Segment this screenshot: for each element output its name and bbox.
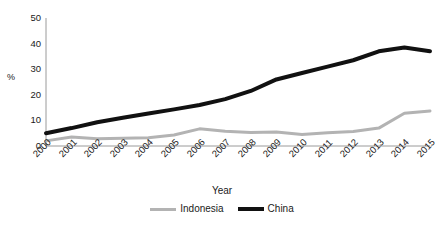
legend-swatch-icon	[238, 207, 264, 211]
legend-label: Indonesia	[180, 203, 223, 215]
legend-item-indonesia[interactable]: Indonesia	[150, 203, 223, 215]
series-layer	[46, 47, 430, 140]
line-chart: % 01020304050 20002001200220032004200520…	[0, 0, 444, 227]
x-axis-title: Year	[0, 185, 444, 197]
legend-swatch-icon	[150, 208, 176, 211]
legend-item-china[interactable]: China	[238, 203, 294, 215]
series-line-indonesia	[46, 111, 430, 141]
series-line-china	[46, 47, 430, 133]
chart-legend: Indonesia China	[0, 203, 444, 215]
legend-label: China	[268, 203, 294, 215]
